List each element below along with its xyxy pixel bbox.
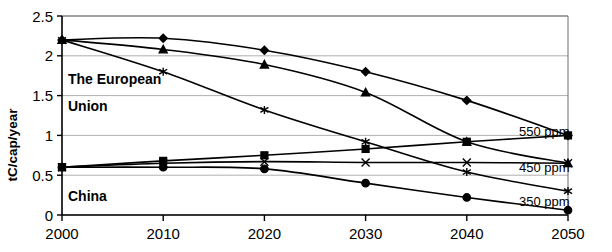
y-tick-label-2: 2 xyxy=(45,47,53,64)
y-tick-label-1.5: 1.5 xyxy=(32,87,53,104)
legend-label-350ppm: 350 ppm xyxy=(519,194,570,209)
legend-label-450ppm: 450 ppm xyxy=(519,160,570,175)
x-tick-label-2050: 2050 xyxy=(551,225,584,242)
y-tick-label-0: 0 xyxy=(45,207,53,224)
x-tick-label-2040: 2040 xyxy=(450,225,483,242)
legend-label-550ppm: 550 ppm xyxy=(519,124,570,139)
annotation-european-union-line2: Union xyxy=(68,98,108,114)
series-marker-5-1 xyxy=(160,164,167,171)
annotation-china: China xyxy=(68,188,107,204)
y-tick-label-0.5: 0.5 xyxy=(32,167,53,184)
series-marker-5-3 xyxy=(362,179,369,186)
y-tick-label-2.5: 2.5 xyxy=(32,8,53,25)
annotation-european-union-line1: The European xyxy=(68,71,161,87)
series-marker-5-0 xyxy=(58,164,65,171)
x-tick-label-2020: 2020 xyxy=(248,225,281,242)
y-axis-title: tC/cap/year xyxy=(5,108,20,182)
x-tick-label-2000: 2000 xyxy=(45,225,78,242)
series-marker-3-2 xyxy=(261,152,268,159)
y-tick-label-1: 1 xyxy=(45,127,53,144)
series-marker-5-4 xyxy=(463,194,470,201)
series-marker-3-4 xyxy=(463,138,470,145)
x-tick-label-2030: 2030 xyxy=(349,225,382,242)
series-marker-5-2 xyxy=(261,165,268,172)
x-tick-label-2010: 2010 xyxy=(147,225,180,242)
series-marker-3-3 xyxy=(362,146,369,153)
legend: 550 ppm 450 ppm 350 ppm xyxy=(519,124,570,209)
line-chart: 00.511.522.5 200020102020203020402050 tC… xyxy=(0,0,612,252)
chart-container: 00.511.522.5 200020102020203020402050 tC… xyxy=(0,0,612,252)
